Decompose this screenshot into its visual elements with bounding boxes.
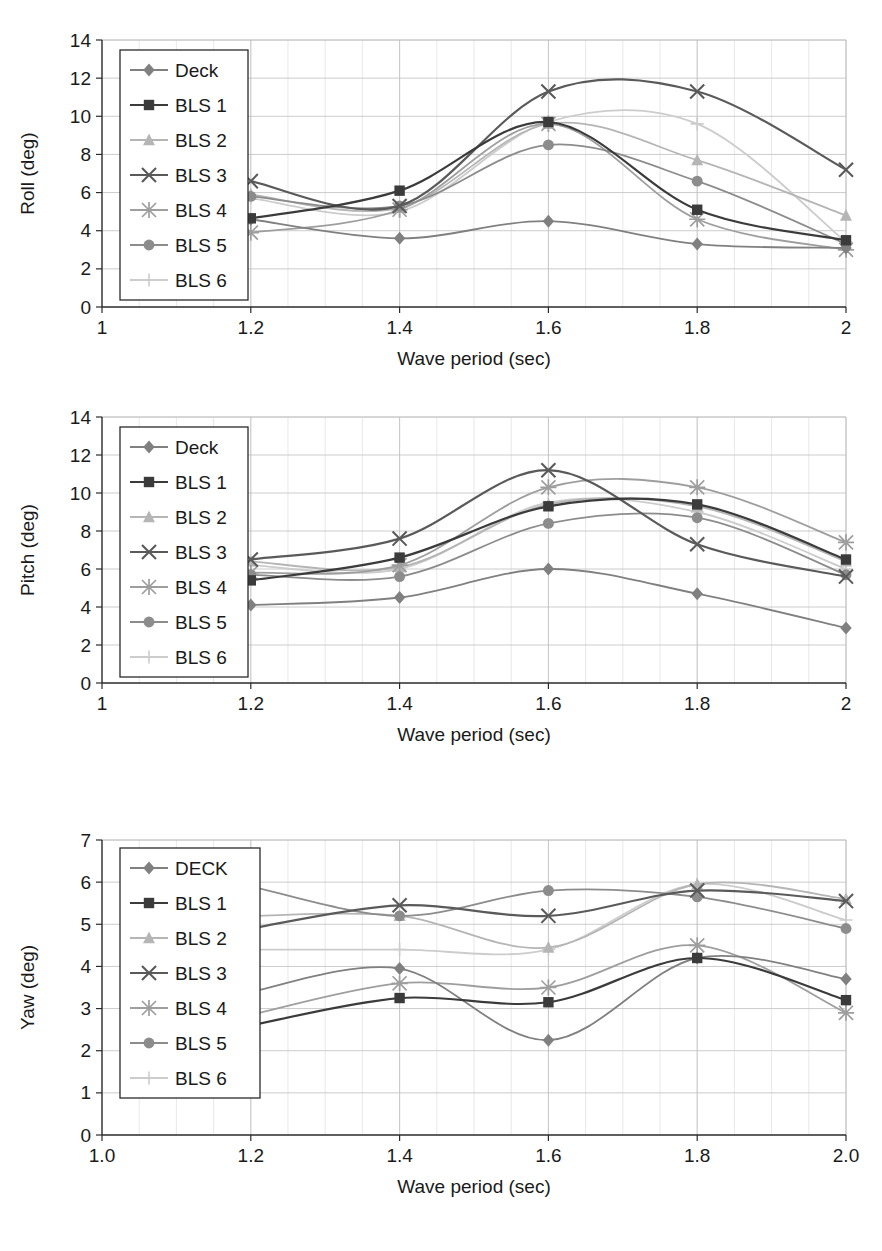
marker-bls-1	[543, 997, 553, 1007]
marker-deck	[543, 215, 554, 228]
legend-marker-bls-4	[141, 1000, 157, 1016]
y-tick-label: 2	[80, 635, 91, 656]
x-tick-label: 1.2	[238, 317, 264, 338]
legend-item-label: BLS 4	[175, 200, 227, 221]
x-tick-label: 1.4	[386, 317, 413, 338]
y-tick-label: 2	[80, 258, 91, 279]
legend-item-label: BLS 6	[175, 270, 227, 291]
legend-item-label: DECK	[175, 858, 228, 879]
legend-item-label: BLS 5	[175, 235, 227, 256]
y-axis-ticks: 02468101214	[70, 30, 102, 318]
legend-item-label: BLS 6	[175, 647, 227, 668]
x-axis-ticks: 11.21.41.61.82	[97, 307, 852, 338]
chart-pitch: 0246810121411.21.41.61.82Wave period (se…	[0, 390, 882, 790]
x-tick-label: 1	[97, 317, 108, 338]
y-tick-label: 4	[80, 956, 91, 977]
x-tick-label: 1.6	[535, 317, 561, 338]
marker-bls-4	[392, 975, 408, 991]
marker-bls-5	[543, 139, 554, 150]
y-tick-label: 0	[80, 673, 91, 694]
legend-marker-bls-4	[141, 579, 157, 595]
legend: DeckBLS 1BLS 2BLS 3BLS 4BLS 5BLS 6	[120, 50, 248, 300]
y-tick-label: 3	[80, 998, 91, 1019]
y-axis-title: Yaw (deg)	[17, 945, 38, 1030]
y-tick-label: 6	[80, 559, 91, 580]
legend-marker-bls-1	[144, 477, 154, 487]
marker-bls-6	[691, 117, 704, 130]
legend-item-label: BLS 2	[175, 507, 227, 528]
x-tick-label: 1.8	[684, 693, 710, 714]
marker-bls-5	[692, 512, 703, 523]
x-tick-label: 1.2	[238, 693, 264, 714]
marker-bls-4	[689, 937, 705, 953]
y-tick-label: 14	[70, 407, 92, 428]
y-tick-label: 0	[80, 297, 91, 318]
marker-bls-1	[394, 993, 404, 1003]
legend-marker-bls-1	[144, 100, 154, 110]
figure-multi-chart: 0246810121411.21.41.61.82Wave period (se…	[0, 0, 882, 1251]
y-tick-label: 12	[70, 445, 91, 466]
y-tick-label: 14	[70, 30, 92, 51]
marker-bls-1	[841, 995, 851, 1005]
marker-deck	[840, 973, 851, 986]
chart-roll: 0246810121411.21.41.61.82Wave period (se…	[0, 0, 882, 390]
marker-bls-1	[692, 205, 702, 215]
legend-item-label: BLS 2	[175, 130, 227, 151]
y-tick-label: 4	[80, 597, 91, 618]
marker-bls-4	[689, 479, 705, 495]
legend-marker-bls-5	[144, 1038, 155, 1049]
marker-bls-4	[838, 534, 854, 550]
marker-bls-5	[394, 910, 405, 921]
marker-deck	[394, 591, 405, 604]
x-axis-title: Wave period (sec)	[397, 1176, 550, 1197]
x-tick-label: 1.0	[89, 1145, 115, 1166]
chart-yaw: 012345671.01.21.41.61.82.0Wave period (s…	[0, 790, 882, 1230]
x-axis-ticks: 1.01.21.41.61.82.0	[89, 1135, 859, 1166]
marker-deck	[543, 1034, 554, 1047]
y-tick-label: 8	[80, 521, 91, 542]
legend-item-label: BLS 5	[175, 612, 227, 633]
x-tick-label: 1.4	[386, 693, 413, 714]
marker-bls-1	[692, 499, 702, 509]
x-tick-label: 2	[841, 693, 852, 714]
marker-bls-5	[543, 885, 554, 896]
marker-bls-4	[838, 1005, 854, 1021]
y-tick-label: 6	[80, 872, 91, 893]
marker-bls-5	[394, 571, 405, 582]
chart-roll-canvas: 0246810121411.21.41.61.82Wave period (se…	[0, 0, 882, 390]
y-tick-label: 5	[80, 914, 91, 935]
y-tick-label: 0	[80, 1125, 91, 1146]
legend-item-label: BLS 2	[175, 928, 227, 949]
marker-bls-1	[841, 235, 851, 245]
legend-item-label: BLS 5	[175, 1033, 227, 1054]
legend-item-label: BLS 1	[175, 893, 227, 914]
marker-deck	[691, 238, 702, 251]
legend-marker-bls-4	[141, 202, 157, 218]
cropped-caption	[22, 1236, 442, 1248]
legend-item-label: Deck	[175, 60, 219, 81]
marker-bls-4	[540, 979, 556, 995]
legend-item-label: BLS 3	[175, 963, 227, 984]
y-tick-label: 10	[70, 483, 91, 504]
legend-marker-bls-1	[144, 898, 154, 908]
legend-item-label: BLS 1	[175, 95, 227, 116]
chart-pitch-canvas: 0246810121411.21.41.61.82Wave period (se…	[0, 390, 882, 790]
y-tick-label: 1	[80, 1082, 91, 1103]
legend-marker-bls-5	[144, 617, 155, 628]
x-tick-label: 1.8	[684, 317, 710, 338]
legend-item-label: BLS 3	[175, 165, 227, 186]
legend-item-label: BLS 4	[175, 577, 227, 598]
marker-bls-1	[394, 185, 404, 195]
x-tick-label: 1.8	[684, 1145, 710, 1166]
x-axis-title: Wave period (sec)	[397, 348, 550, 369]
x-axis-title: Wave period (sec)	[397, 724, 550, 745]
x-tick-label: 1.6	[535, 1145, 561, 1166]
marker-deck	[394, 232, 405, 245]
marker-bls-1	[543, 501, 553, 511]
legend-marker-bls-5	[144, 240, 155, 251]
marker-bls-1	[543, 117, 553, 127]
y-axis-ticks: 01234567	[80, 830, 102, 1146]
legend-item-label: BLS 6	[175, 1068, 227, 1089]
legend: DECKBLS 1BLS 2BLS 3BLS 4BLS 5BLS 6	[120, 848, 260, 1098]
marker-deck	[394, 962, 405, 975]
